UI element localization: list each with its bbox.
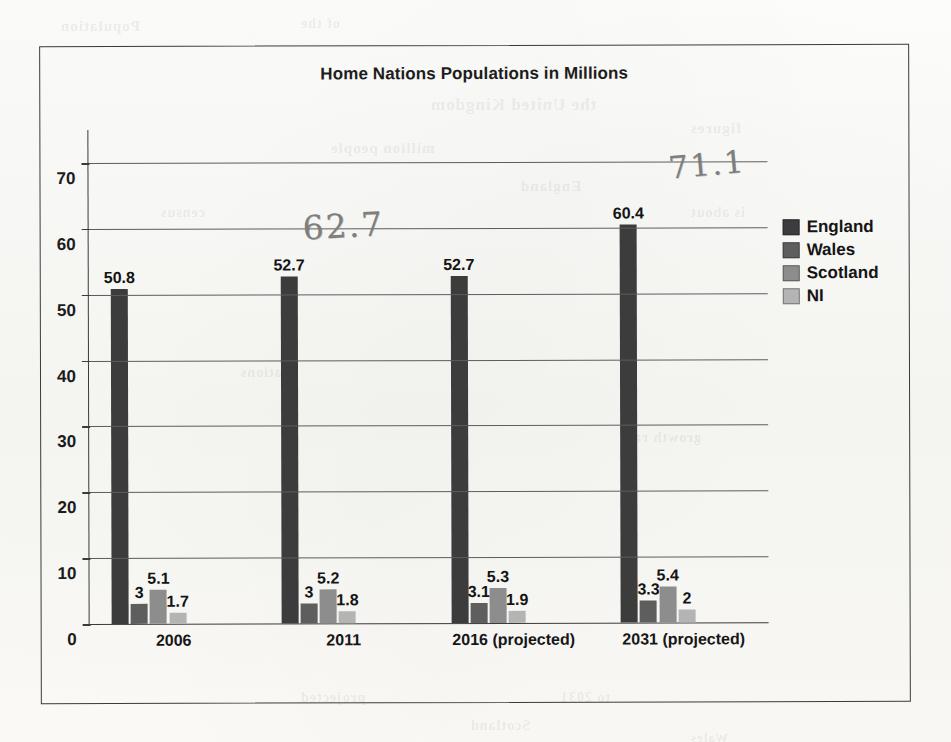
bar[interactable] xyxy=(339,611,356,623)
y-axis-tick-label: 0 xyxy=(67,630,77,650)
y-axis-tick-label: 60 xyxy=(57,235,76,255)
y-axis-tick xyxy=(82,295,90,297)
legend-item-label: England xyxy=(807,216,874,236)
bar-slot: 5.3 xyxy=(488,129,506,623)
bar-slot: 5.2 xyxy=(319,129,337,623)
bar-value-label: 1.9 xyxy=(506,591,528,607)
bar[interactable] xyxy=(470,603,487,623)
bar-group-bars: 60.43.35.42 xyxy=(598,128,769,622)
bar-group: 50.835.11.7 xyxy=(88,130,259,624)
legend-item[interactable]: Wales xyxy=(783,238,879,261)
bar-slot: 1.9 xyxy=(507,129,525,623)
chart-title: Home Nations Populations in Millions xyxy=(40,63,908,85)
y-axis-tick xyxy=(82,361,90,363)
bar-slot: 1.7 xyxy=(168,130,186,624)
chart-legend: EnglandWalesScotlandNI xyxy=(783,215,879,307)
bar-value-label: 2 xyxy=(682,590,691,606)
y-axis-tick-label: 20 xyxy=(57,498,76,518)
bar-slot: 3.1 xyxy=(469,129,487,623)
plot-area: 50.835.11.752.735.21.852.73.15.31.960.43… xyxy=(87,128,768,625)
bleed-through-text: Wales xyxy=(690,730,728,742)
bar-slot: 5.4 xyxy=(658,128,676,622)
bar[interactable] xyxy=(489,588,506,623)
bar-slot: 3 xyxy=(130,130,148,624)
y-axis-tick xyxy=(83,624,91,626)
bar[interactable] xyxy=(281,276,299,623)
legend-item-label: Scotland xyxy=(807,262,879,282)
bar-value-label: 5.3 xyxy=(487,569,509,585)
bleed-through-text: Population xyxy=(60,18,140,35)
bar[interactable] xyxy=(509,610,526,623)
bar[interactable] xyxy=(678,609,695,622)
bar-groups: 50.835.11.752.735.21.852.73.15.31.960.43… xyxy=(88,128,768,624)
x-axis-label: 2031 (projected) xyxy=(599,630,769,648)
legend-swatch-icon xyxy=(783,288,800,304)
legend-item[interactable]: England xyxy=(783,215,879,238)
y-axis-tick-label: 30 xyxy=(57,432,76,452)
x-axis-label: 2006 xyxy=(89,632,259,650)
bar-group-bars: 50.835.11.7 xyxy=(88,130,259,624)
bar-value-label: 5.2 xyxy=(317,570,339,586)
bar-slot: 60.4 xyxy=(620,129,638,623)
x-axis-label: 2011 xyxy=(259,631,429,649)
bar-group: 52.735.21.8 xyxy=(258,129,429,623)
bar-slot: 52.7 xyxy=(280,129,298,623)
bleed-through-text: of the xyxy=(300,16,340,32)
bar[interactable] xyxy=(640,601,657,623)
bar[interactable] xyxy=(450,276,468,623)
bar-group-bars: 52.735.21.8 xyxy=(258,129,429,623)
legend-item-label: NI xyxy=(807,286,824,306)
bar-slot: 52.7 xyxy=(450,129,468,623)
legend-swatch-icon xyxy=(783,219,800,235)
bar-value-label: 5.4 xyxy=(657,568,679,584)
bar-group: 52.73.15.31.9 xyxy=(428,129,599,623)
bar-value-label: 5.1 xyxy=(147,571,169,587)
bar[interactable] xyxy=(169,613,186,624)
y-axis-tick xyxy=(81,163,89,165)
bar-value-label: 3 xyxy=(135,585,144,601)
bar[interactable] xyxy=(320,589,337,623)
bar[interactable] xyxy=(301,604,318,624)
bar[interactable] xyxy=(150,590,167,624)
x-axis-labels: 200620112016 (projected)2031 (projected) xyxy=(89,630,769,650)
chart-frame: Home Nations Populations in Millions 50.… xyxy=(39,44,911,704)
bar-group-bars: 52.73.15.31.9 xyxy=(428,129,599,623)
bar[interactable] xyxy=(111,289,129,624)
legend-swatch-icon xyxy=(783,265,800,281)
plot-wrap: 50.835.11.752.735.21.852.73.15.31.960.43… xyxy=(87,128,768,625)
bar-slot: 1.8 xyxy=(338,129,356,623)
bar[interactable] xyxy=(620,225,638,623)
y-axis-tick-label: 50 xyxy=(57,301,76,321)
bar-slot: 3 xyxy=(299,129,317,623)
bar-slot: 2 xyxy=(677,128,695,622)
y-axis-tick xyxy=(82,426,90,428)
x-axis-label: 2016 (projected) xyxy=(429,631,599,649)
y-axis-tick xyxy=(82,492,90,494)
legend-swatch-icon xyxy=(783,242,800,258)
y-axis-tick-label: 70 xyxy=(57,169,76,189)
y-axis-tick-label: 10 xyxy=(58,564,77,584)
y-axis-tick-label: 40 xyxy=(57,367,76,387)
bar-slot: 5.1 xyxy=(149,130,167,624)
bar[interactable] xyxy=(131,604,148,624)
bar-value-label: 3.3 xyxy=(637,582,659,598)
bar-value-label: 3.1 xyxy=(468,584,490,600)
legend-item[interactable]: Scotland xyxy=(783,261,879,284)
y-axis-tick xyxy=(82,229,90,231)
bar-value-label: 3 xyxy=(305,585,314,601)
legend-item[interactable]: NI xyxy=(783,284,879,307)
bleed-through-text: Scotland xyxy=(470,718,530,734)
bar-slot: 50.8 xyxy=(110,130,128,624)
bar-value-label: 1.7 xyxy=(167,594,189,610)
legend-item-label: Wales xyxy=(807,240,856,260)
y-axis-tick xyxy=(82,558,90,560)
bar-value-label: 1.8 xyxy=(336,592,358,608)
bar[interactable] xyxy=(659,587,676,623)
bar-slot: 3.3 xyxy=(639,129,657,623)
bar-group: 60.43.35.42 xyxy=(598,128,769,622)
